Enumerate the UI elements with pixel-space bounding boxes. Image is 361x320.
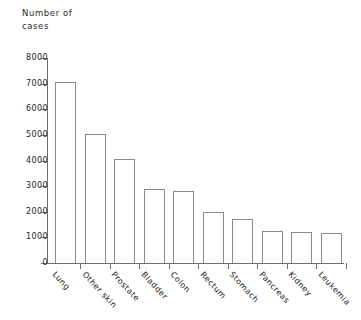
x-axis-category-label: Leukemia [316, 270, 352, 307]
x-axis-tick [169, 263, 170, 269]
x-axis-category-label: Kidney [286, 270, 313, 298]
y-axis-tick-label: 2000 [10, 207, 48, 216]
x-axis-category-label: Lung [50, 270, 71, 292]
x-axis-tick [287, 263, 288, 269]
y-axis-title-line2: cases [22, 20, 49, 33]
y-axis-tick-label-wrap: 6000 [0, 109, 48, 110]
x-axis-tick [228, 263, 229, 269]
y-axis-tick-label: 4000 [10, 156, 48, 165]
y-axis-tick-label-wrap: 5000 [0, 135, 48, 136]
bar [173, 191, 194, 263]
bar [232, 219, 253, 263]
x-axis-tick [257, 263, 258, 269]
y-axis-tick-label-wrap: 1000 [0, 237, 48, 238]
y-axis-tick-label: 0 [10, 258, 48, 267]
x-axis-tick [139, 263, 140, 269]
x-axis-line [47, 263, 344, 264]
bar [114, 159, 135, 263]
bar [291, 232, 312, 263]
y-axis-tick-label-wrap: 4000 [0, 161, 48, 162]
bar [55, 82, 76, 263]
y-axis-tick-label: 3000 [10, 181, 48, 190]
y-axis-tick-label: 5000 [10, 130, 48, 139]
y-axis-tick-label-wrap: 2000 [0, 212, 48, 213]
x-axis-category-label: Colon [168, 270, 192, 295]
y-axis-tick-label: 1000 [10, 232, 48, 241]
y-axis-tick-label-wrap: 0 [0, 263, 48, 264]
bar [85, 134, 106, 263]
x-axis-tick [346, 263, 347, 269]
x-axis-tick [316, 263, 317, 269]
x-axis-category-label: Rectum [198, 270, 227, 301]
y-axis-tick-label: 8000 [10, 53, 48, 62]
x-axis-tick [80, 263, 81, 269]
bar [262, 231, 283, 263]
y-axis-tick-label-wrap: 8000 [0, 58, 48, 59]
bar [144, 189, 165, 263]
y-axis-title-line1: Number of [22, 7, 72, 20]
bar [321, 233, 342, 263]
bar-chart: Number of cases 010002000300040005000600… [0, 0, 361, 320]
y-axis-tick-label: 7000 [10, 79, 48, 88]
y-axis-tick-label-wrap: 7000 [0, 84, 48, 85]
x-axis-tick [110, 263, 111, 269]
y-axis-tick-label-wrap: 3000 [0, 186, 48, 187]
x-axis-tick [198, 263, 199, 269]
bar [203, 212, 224, 263]
x-axis-category-label: Stomach [227, 270, 260, 305]
y-axis-tick-label: 6000 [10, 104, 48, 113]
x-axis-category-label: Bladder [139, 270, 169, 301]
